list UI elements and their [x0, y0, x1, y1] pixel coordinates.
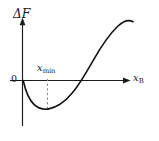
- origin-label: 0: [11, 74, 17, 84]
- x-axis-base: x: [133, 72, 139, 83]
- x-axis-subscript: B: [139, 77, 144, 85]
- x-axis-arrow-icon: [123, 78, 131, 84]
- x-min-label: xmin: [37, 63, 55, 73]
- x-min-subscript: min: [43, 67, 56, 75]
- y-axis-label: ΔF: [13, 8, 30, 21]
- free-energy-curve-figure: ΔF 0 xmin xB: [0, 0, 159, 141]
- x-axis-label: xB: [133, 73, 144, 83]
- delta-symbol: Δ: [13, 7, 22, 21]
- x-min-base: x: [37, 62, 43, 73]
- plot-canvas: [0, 0, 159, 141]
- free-energy-symbol: F: [22, 6, 30, 21]
